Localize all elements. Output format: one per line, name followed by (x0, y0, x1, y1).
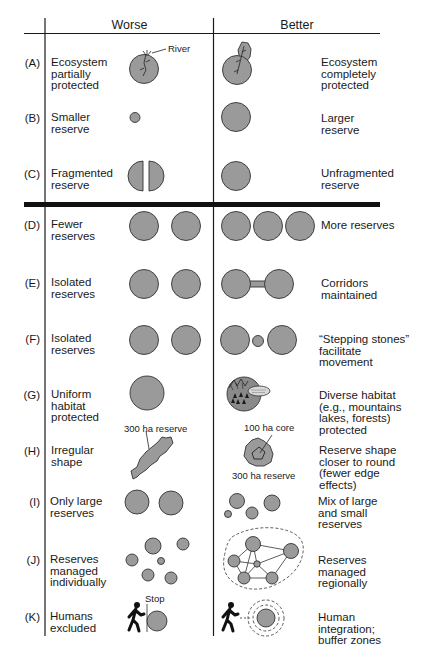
better-label: Reserves managed regionally (318, 555, 367, 590)
better-label: Ecosystem completely protected (321, 57, 377, 92)
walking-person-icon (223, 602, 238, 631)
better-label: “Stepping stones” facilitate movement (319, 334, 409, 369)
better-label: Diverse habitat (e.g., mountains lakes, … (319, 390, 401, 436)
section-divider-thick (24, 202, 380, 207)
worse-label: Uniform habitat protected (51, 389, 99, 424)
individual-reserves-icon (126, 538, 189, 584)
row-id: (G) (0, 389, 40, 401)
header-worse: Worse (46, 18, 213, 32)
worse-label: Fragmented reserve (51, 168, 113, 191)
isolated-reserves-icon (130, 326, 201, 355)
worse-label: Reserves managed individually (50, 554, 106, 589)
core-annotation: 100 ha core (244, 422, 294, 433)
better-label: Human integration; buffer zones (318, 612, 381, 647)
row-id: (E) (0, 277, 40, 289)
row-id: (K) (0, 611, 40, 623)
header-better: Better (214, 18, 380, 32)
row-id: (B) (0, 112, 40, 124)
round-reserve-with-core-icon (244, 435, 273, 466)
corridor-reserves-icon (222, 270, 294, 299)
better-label: Larger reserve (321, 113, 359, 136)
irregular-reserve-annotation: 300 ha reserve (124, 423, 187, 434)
row-id: (J) (0, 554, 40, 566)
buffer-zone-icon (240, 600, 284, 636)
more-reserves-icon (222, 212, 315, 241)
row-id: (H) (0, 445, 40, 457)
worse-label: Ecosystem partially protected (51, 57, 107, 92)
uniform-habitat-icon (130, 376, 164, 410)
fewer-reserves-icon (130, 212, 201, 241)
reserve-with-watershed-icon (223, 42, 252, 85)
better-label: Unfragmented reserve (321, 168, 394, 191)
fragmented-reserve-icon (128, 161, 164, 191)
better-label: More reserves (321, 220, 395, 232)
row-id: (I) (0, 496, 40, 508)
excluded-reserve-icon (147, 611, 167, 631)
walking-person-icon (129, 602, 144, 631)
only-large-reserves-icon (125, 490, 183, 515)
stop-annotation: Stop (145, 593, 165, 604)
worse-label: Humans excluded (50, 611, 96, 634)
unfragmented-reserve-icon (222, 162, 251, 191)
mountains-lakes-forests-icon (227, 377, 270, 411)
round-reserve-annotation: 300 ha reserve (232, 470, 295, 481)
worse-label: Only large reserves (50, 496, 102, 519)
row-id: (A) (0, 57, 40, 69)
worse-label: Isolated reserves (51, 277, 95, 300)
worse-label: Smaller reserve (51, 112, 90, 135)
better-label: Reserve shape closer to round (fewer edg… (319, 445, 396, 491)
worse-label: Fewer reserves (51, 219, 95, 242)
regional-network-icon (224, 528, 304, 589)
large-reserve-icon (222, 103, 251, 132)
river-icon (130, 49, 167, 84)
river-annotation: River (168, 43, 190, 54)
row-id: (F) (0, 333, 40, 345)
mix-reserves-icon (225, 494, 281, 520)
row-id: (D) (0, 219, 40, 231)
row-id: (C) (0, 168, 40, 180)
better-label: Mix of large and small reserves (318, 496, 377, 531)
irregular-reserve-shape-icon (131, 431, 173, 479)
stepping-stones-icon (221, 326, 297, 355)
better-label: Corridors maintained (321, 278, 377, 301)
isolated-reserves-icon (130, 270, 201, 299)
worse-label: Irregular shape (51, 445, 94, 468)
worse-label: Isolated reserves (51, 333, 95, 356)
small-reserve-icon (130, 113, 140, 123)
